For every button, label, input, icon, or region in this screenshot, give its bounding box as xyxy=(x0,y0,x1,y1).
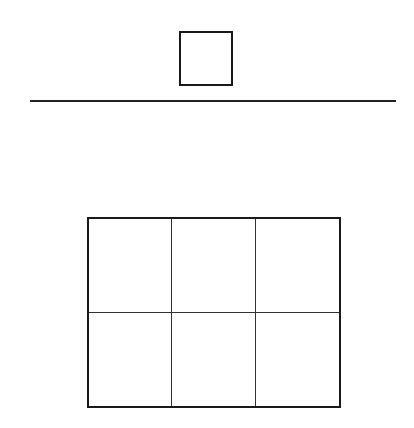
divider-line xyxy=(30,100,396,102)
grid-cell-4[interactable] xyxy=(89,313,172,407)
grid-cell-5[interactable] xyxy=(172,313,255,407)
grid-cell-3[interactable] xyxy=(256,219,339,313)
grid-cell-1[interactable] xyxy=(89,219,172,313)
number-grid xyxy=(87,217,341,408)
target-die xyxy=(179,31,233,86)
grid-cell-6[interactable] xyxy=(256,313,339,407)
grid-cell-2[interactable] xyxy=(172,219,255,313)
